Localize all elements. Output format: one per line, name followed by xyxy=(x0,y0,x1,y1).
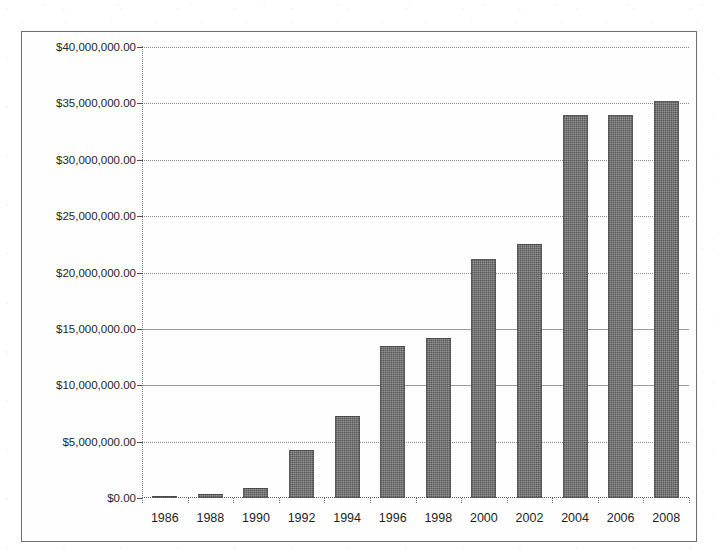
x-axis-tick-mark xyxy=(188,498,189,503)
x-axis-tick-mark xyxy=(598,498,599,503)
bar[interactable] xyxy=(289,450,314,498)
gridline xyxy=(142,47,689,48)
y-axis-tick-mark xyxy=(137,442,143,443)
chart-frame: $0.00$5,000,000.00$10,000,000.00$15,000,… xyxy=(21,31,697,542)
y-axis-tick-label: $20,000,000.00 xyxy=(56,267,136,279)
y-axis-tick-mark xyxy=(137,385,143,386)
gridline xyxy=(142,216,689,217)
x-axis-tick-label: 2000 xyxy=(470,510,498,526)
x-axis-tick-label: 1996 xyxy=(379,510,407,526)
gridline xyxy=(142,160,689,161)
x-axis-tick-mark xyxy=(142,498,143,503)
x-axis-tick-label: 2002 xyxy=(516,510,544,526)
x-axis-tick-label: 2006 xyxy=(607,510,635,526)
x-axis-tick-labels: 1986198819901992199419961998200020022004… xyxy=(142,510,689,532)
y-axis-tick-label: $10,000,000.00 xyxy=(56,379,136,391)
y-axis-tick-label: $40,000,000.00 xyxy=(56,41,136,53)
bar[interactable] xyxy=(380,346,405,498)
x-axis-tick-mark xyxy=(416,498,417,503)
y-axis-tick-label: $5,000,000.00 xyxy=(62,436,136,448)
y-axis-tick-mark xyxy=(137,216,143,217)
x-axis-tick-mark xyxy=(324,498,325,503)
gridline xyxy=(142,442,689,443)
y-axis-tick-labels: $0.00$5,000,000.00$10,000,000.00$15,000,… xyxy=(22,47,136,498)
x-axis-tick-label: 1992 xyxy=(288,510,316,526)
gridline xyxy=(142,103,689,104)
bar[interactable] xyxy=(471,259,496,498)
x-axis-tick-label: 1994 xyxy=(333,510,361,526)
x-axis-tick-label: 1986 xyxy=(151,510,179,526)
gridline xyxy=(142,385,689,386)
x-axis-tick-mark xyxy=(507,498,508,503)
bar[interactable] xyxy=(517,244,542,498)
y-axis-tick-label: $15,000,000.00 xyxy=(56,323,136,335)
x-axis-tick-label: 1988 xyxy=(196,510,224,526)
chart-title-fragment: ............. xyxy=(96,0,396,7)
x-axis-tick-label: 2004 xyxy=(561,510,589,526)
x-axis-tick-label: 2008 xyxy=(652,510,680,526)
bar[interactable] xyxy=(608,115,633,498)
bar[interactable] xyxy=(243,488,268,498)
y-axis-tick-label: $0.00 xyxy=(107,492,136,504)
bar[interactable] xyxy=(335,416,360,498)
x-axis-tick-mark xyxy=(370,498,371,503)
x-axis-tick-mark xyxy=(689,498,690,503)
bar[interactable] xyxy=(198,494,223,499)
y-axis-tick-mark xyxy=(137,160,143,161)
y-axis-tick-label: $35,000,000.00 xyxy=(56,97,136,109)
gridline xyxy=(142,273,689,274)
y-axis-tick-mark xyxy=(137,103,143,104)
bar[interactable] xyxy=(654,101,679,498)
bar[interactable] xyxy=(152,496,177,498)
bar[interactable] xyxy=(563,115,588,498)
x-axis-tick-label: 1990 xyxy=(242,510,270,526)
x-axis-tick-mark xyxy=(461,498,462,503)
x-axis-tick-label: 1998 xyxy=(424,510,452,526)
y-axis-tick-mark xyxy=(137,329,143,330)
y-axis-tick-label: $25,000,000.00 xyxy=(56,210,136,222)
y-axis-tick-mark xyxy=(137,273,143,274)
x-axis-tick-mark xyxy=(279,498,280,503)
bar[interactable] xyxy=(426,338,451,498)
x-axis-tick-mark xyxy=(643,498,644,503)
gridline xyxy=(142,329,689,330)
plot-area xyxy=(142,47,689,498)
x-axis-tick-mark xyxy=(552,498,553,503)
y-axis-tick-mark xyxy=(137,47,143,48)
x-axis-tick-mark xyxy=(233,498,234,503)
y-axis-tick-label: $30,000,000.00 xyxy=(56,154,136,166)
